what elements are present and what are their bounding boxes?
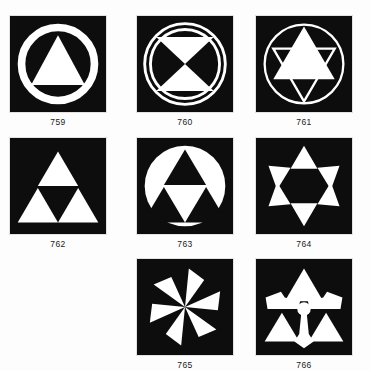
figure-panel-762	[10, 138, 106, 234]
six-pointed-star-points-icon	[256, 138, 352, 234]
figure-cell-766: 766	[256, 259, 356, 371]
figure-caption-759: 759	[10, 112, 106, 128]
figure-caption-764: 764	[256, 234, 352, 250]
hourglass-in-double-ring-icon	[137, 16, 233, 112]
triforce-three-triangles-icon	[10, 138, 106, 234]
figure-caption-763: 763	[137, 234, 233, 250]
figure-cell-765: 765	[137, 259, 237, 371]
figure-panel-759	[10, 16, 106, 112]
figure-panel-764	[256, 138, 352, 234]
triforce-inverted-on-white-disc-icon	[137, 138, 233, 234]
figure-caption-766: 766	[256, 355, 352, 371]
triangle-in-ring-icon	[10, 16, 106, 112]
figure-cell-760: 760	[137, 16, 237, 128]
figure-caption-765: 765	[137, 355, 233, 371]
figure-caption-760: 760	[137, 112, 233, 128]
figure-panel-761	[256, 16, 352, 112]
figure-cell-763: 763	[137, 138, 237, 250]
figure-caption-761: 761	[256, 112, 352, 128]
figure-panel-766	[256, 259, 352, 355]
figure-panel-765	[137, 259, 233, 355]
figure-cell-761: 761	[256, 16, 356, 128]
figure-caption-762: 762	[10, 234, 106, 250]
six-blade-pinwheel-icon	[137, 259, 233, 355]
hexagram-in-thin-ring-icon	[256, 16, 352, 112]
winged-triad-emblem-icon	[256, 259, 352, 355]
figure-cell-759: 759	[10, 16, 110, 128]
figure-cell-762: 762	[10, 138, 110, 250]
figure-panel-763	[137, 138, 233, 234]
figure-cell-764: 764	[256, 138, 356, 250]
figure-panel-760	[137, 16, 233, 112]
